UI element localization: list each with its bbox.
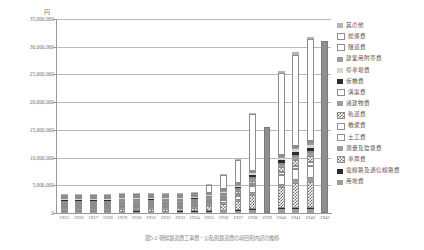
legend-swatch-icon (337, 169, 343, 174)
x-axis-tick-label: 1930 (132, 215, 142, 220)
legend-swatch-icon (337, 180, 343, 185)
bar-series-group (57, 19, 332, 213)
legend-item[interactable]: 軌道費 (337, 110, 423, 121)
legend-item[interactable]: 車両費 (337, 154, 423, 165)
bar-segment (235, 201, 242, 210)
y-axis-tick-label: 20,000,000 (30, 99, 54, 105)
x-axis-tick-label: 1926 (74, 215, 84, 220)
bar-segment (292, 55, 299, 146)
bar-column[interactable] (104, 194, 111, 213)
legend-label: 総係費 (348, 34, 366, 40)
legend-swatch-icon (337, 33, 345, 40)
bar-column[interactable] (119, 193, 126, 213)
legend-item[interactable]: 建築用附帯費 (337, 54, 423, 65)
legend-item[interactable]: 其の他 (337, 20, 423, 31)
bar-column[interactable] (61, 194, 68, 213)
bar-segment (75, 212, 82, 213)
bar-column[interactable] (220, 174, 227, 213)
legend-label: 仮橋費 (346, 79, 364, 85)
legend-label: 建築用附帯費 (346, 56, 382, 62)
legend-item[interactable]: 用地費 (337, 177, 423, 188)
bar-segment (278, 73, 285, 155)
bar-column[interactable] (206, 184, 213, 213)
x-axis-tick-label: 1943 (320, 215, 330, 220)
legend-item[interactable]: 隧道費 (337, 42, 423, 53)
bar-segment (220, 175, 227, 189)
bar-segment (90, 212, 97, 213)
legend-label: 用地費 (346, 179, 364, 185)
bar-column[interactable] (133, 193, 140, 213)
bar-segment (307, 156, 314, 163)
x-axis-tick-label: 1939 (262, 215, 272, 220)
legend-item[interactable]: 電線路及通信線路費 (337, 165, 423, 176)
bar-segment (278, 187, 285, 208)
legend-label: 隧道費 (348, 45, 366, 51)
legend-label: 橋梁費 (348, 123, 366, 129)
legend-item[interactable]: 土工費 (337, 132, 423, 143)
bar-column[interactable] (75, 194, 82, 213)
bar-segment (292, 209, 299, 213)
legend-swatch-icon (337, 44, 345, 51)
bar-column[interactable] (321, 41, 328, 213)
y-axis-tick-label: 30,000,000 (30, 44, 54, 50)
bar-column[interactable] (278, 71, 285, 214)
x-axis-tick-label: 1940 (276, 215, 286, 220)
bar-segment (307, 166, 314, 178)
legend-item[interactable]: 測量及監督費 (337, 143, 423, 154)
bar-segment (292, 169, 299, 180)
x-axis-line (56, 213, 332, 214)
y-axis-unit-label: 円 (44, 7, 50, 16)
legend-item[interactable]: 仮橋費 (337, 76, 423, 87)
legend-item[interactable]: 停車場費 (337, 65, 423, 76)
bar-segment (307, 39, 314, 141)
x-axis-tick-label: 1931 (146, 215, 156, 220)
bar-column[interactable] (162, 193, 169, 213)
legend-label: 諸建物費 (346, 101, 370, 107)
x-axis-tick-label: 1941 (291, 215, 301, 220)
legend-label: 溝渠費 (348, 90, 366, 96)
y-axis-tick-label: 5,000,000 (32, 182, 54, 188)
bar-column[interactable] (249, 113, 256, 213)
x-axis-tick-label: 1927 (88, 215, 98, 220)
bar-segment (307, 209, 314, 213)
x-axis-tick-label: 1928 (103, 215, 113, 220)
bar-segment (292, 183, 299, 207)
legend-label: 車両費 (348, 157, 366, 163)
legend-item[interactable]: 溝渠費 (337, 87, 423, 98)
bar-segment (321, 41, 328, 213)
legend-label: 軌道費 (348, 112, 366, 118)
bar-column[interactable] (90, 194, 97, 213)
bar-column[interactable] (191, 192, 198, 213)
bar-column[interactable] (177, 193, 184, 213)
legend-label: 土工費 (348, 135, 366, 141)
x-axis-tick-label: 1935 (204, 215, 214, 220)
legend-item[interactable]: 総係費 (337, 31, 423, 42)
bar-segment (177, 212, 184, 213)
x-axis-tick-label: 1938 (247, 215, 257, 220)
legend-swatch-icon (337, 112, 345, 119)
bar-segment (307, 182, 314, 208)
bar-column[interactable] (264, 127, 271, 213)
x-axis-tick-label: 1942 (305, 215, 315, 220)
bar-column[interactable] (148, 193, 155, 213)
bar-segment (61, 212, 68, 213)
legend-item[interactable]: 諸建物費 (337, 98, 423, 109)
legend-swatch-icon (337, 68, 343, 73)
x-axis-tick-label: 1929 (117, 215, 127, 220)
y-axis-tick-label: 15,000,000 (30, 127, 54, 133)
legend-swatch-icon (337, 134, 345, 141)
bar-column[interactable] (307, 37, 314, 213)
legend-item[interactable]: 橋梁費 (337, 121, 423, 132)
bar-segment (278, 175, 285, 184)
bar-segment (206, 185, 213, 193)
bar-column[interactable] (235, 159, 242, 213)
bar-column[interactable] (292, 52, 299, 213)
bar-segment (235, 211, 242, 213)
chart-legend: 其の他総係費隧道費建築用附帯費停車場費仮橋費溝渠費諸建物費軌道費橋梁費土工費測量… (337, 20, 423, 188)
legend-swatch-icon (337, 57, 343, 62)
x-axis-tick-label: 1936 (218, 215, 228, 220)
bar-segment (278, 209, 285, 213)
y-axis-tick-label: 35,000,000 (30, 16, 54, 22)
y-axis-tick-label: 10,000,000 (30, 155, 54, 161)
x-axis-tick-label: 1934 (190, 215, 200, 220)
